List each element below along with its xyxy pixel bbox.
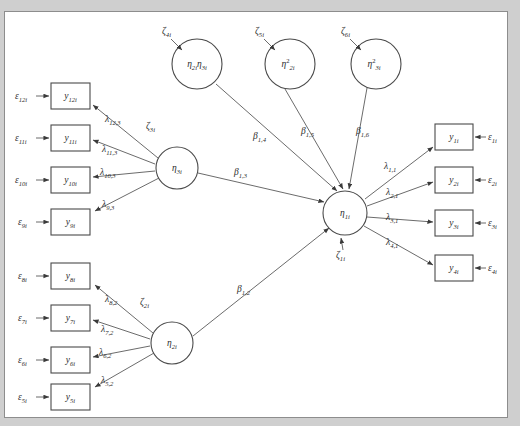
label-lambda-3-1: λ3,1 xyxy=(385,212,398,224)
label-lambda-6-2: λ6,2 xyxy=(98,347,112,359)
label-beta-1-2: β1,2 xyxy=(236,284,251,296)
indicator-y4[interactable]: y4i ε4i λ4,1 xyxy=(364,226,497,281)
path-lambda-4-1 xyxy=(364,226,433,265)
label-epsilon-11: ε11i xyxy=(15,133,27,145)
label-epsilon-12: ε12i xyxy=(15,91,27,103)
label-lambda-12-3: λ12,3 xyxy=(104,114,121,126)
label-epsilon-2: ε2i xyxy=(488,175,497,187)
figure-panel: y12i ε12i y11i ε11i y10i ε10i y9i ε9i xyxy=(4,11,508,418)
label-beta-1-3: β1,3 xyxy=(233,167,248,179)
indicator-y10[interactable]: y10i ε10i xyxy=(15,167,90,193)
left-indicator-group: y12i ε12i y11i ε11i y10i ε10i y9i ε9i xyxy=(15,83,90,410)
path-beta-1-3 xyxy=(198,173,324,202)
indicator-y2[interactable]: y2i ε2i λ2,1 xyxy=(367,167,497,206)
latent-eta3sq[interactable]: η23i ζ6i xyxy=(341,26,401,89)
label-lambda-9-3: λ9,3 xyxy=(101,199,115,211)
indicator-y1[interactable]: y1i ε1i λ1,1 xyxy=(365,124,497,199)
right-indicator-group: y1i ε1i λ1,1 y2i ε2i λ2,1 y3i ε3i λ3,1 xyxy=(364,124,497,281)
label-zeta-6i: ζ6i xyxy=(341,26,350,38)
latent-eta2sq[interactable]: η22i ζ5i xyxy=(255,26,315,89)
label-lambda-11-3: λ11,3 xyxy=(101,144,118,156)
indicator-y11[interactable]: y11i ε11i xyxy=(15,125,90,151)
indicator-y6[interactable]: y6i ε6i xyxy=(18,347,90,373)
label-epsilon-10: ε10i xyxy=(15,175,27,187)
latent-eta1[interactable]: η1i ζ1i xyxy=(323,191,367,262)
sem-diagram-canvas: y12i ε12i y11i ε11i y10i ε10i y9i ε9i xyxy=(5,12,507,417)
label-lambda-4-1: λ4,1 xyxy=(385,237,398,249)
indicator-y9[interactable]: y9i ε9i xyxy=(18,209,90,235)
top-latents-group: η2iη3i ζ4i η22i ζ5i η23i ζ6i xyxy=(162,26,401,89)
arrow-zeta5-to-eta2sq xyxy=(264,39,275,50)
indicator-y8[interactable]: y8i ε8i xyxy=(18,263,90,289)
arrow-zeta6-to-eta3sq xyxy=(350,39,361,50)
arrow-zeta1-to-eta1 xyxy=(341,238,343,250)
label-beta-1-6: β1,6 xyxy=(355,126,370,138)
label-zeta-4i: ζ4i xyxy=(162,26,171,38)
latent-eta2eta3[interactable]: η2iη3i ζ4i xyxy=(162,26,222,89)
label-zeta-3i: ζ3i xyxy=(146,121,155,133)
arrow-zeta4-to-eta2eta3 xyxy=(171,39,182,50)
path-lambda-1-1 xyxy=(365,147,433,199)
label-epsilon-6: ε6i xyxy=(18,355,27,367)
label-lambda-2-1: λ2,1 xyxy=(385,187,398,199)
label-lambda-10-3: λ10,3 xyxy=(99,167,116,179)
path-beta-1-2 xyxy=(193,228,329,336)
label-zeta-5i: ζ5i xyxy=(255,26,264,38)
label-epsilon-1: ε1i xyxy=(488,132,497,144)
label-zeta-1i: ζ1i xyxy=(336,250,345,262)
label-epsilon-7: ε7i xyxy=(18,313,27,325)
label-epsilon-4: ε4i xyxy=(488,263,497,275)
path-lambda-3-1 xyxy=(367,217,433,222)
label-lambda-8-2: λ8,2 xyxy=(104,294,118,306)
label-lambda-7-2: λ7,2 xyxy=(100,324,114,336)
label-epsilon-8: ε8i xyxy=(18,271,27,283)
path-beta-1-6 xyxy=(349,88,367,189)
label-epsilon-9: ε9i xyxy=(18,217,27,229)
path-beta-1-5 xyxy=(285,89,343,189)
indicator-y12[interactable]: y12i ε12i xyxy=(15,83,90,109)
path-lambda-2-1 xyxy=(367,182,433,206)
latent-eta2[interactable]: η2i ζ2i xyxy=(140,297,193,364)
label-epsilon-3: ε3i xyxy=(488,218,497,230)
label-zeta-2i: ζ2i xyxy=(140,297,149,309)
loadings-eta2-group: λ8,2 λ7,2 λ6,2 λ5,2 xyxy=(93,285,154,387)
label-lambda-1-1: λ1,1 xyxy=(383,161,396,173)
label-beta-1-4: β1,4 xyxy=(252,131,267,143)
mid-latents-group: η3i ζ3i η2i ζ2i xyxy=(140,121,198,364)
label-epsilon-5: ε5i xyxy=(18,392,27,404)
indicator-y7[interactable]: y7i ε7i xyxy=(18,305,90,331)
indicator-y5[interactable]: y5i ε5i xyxy=(18,384,90,410)
indicator-y3[interactable]: y3i ε3i λ3,1 xyxy=(367,210,497,236)
